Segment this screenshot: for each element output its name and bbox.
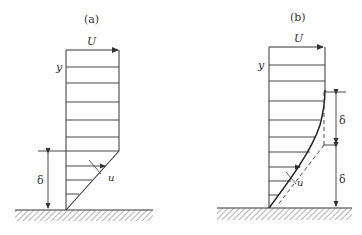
panel-a: (a) U y u δ — [15, 13, 153, 221]
panel-a-velocity-lines — [38, 67, 119, 194]
panel-b-dashed-diagonal — [277, 145, 324, 206]
panel-a-u-label: u — [108, 172, 114, 183]
panel-a-free-stream-label: U — [87, 35, 97, 48]
panel-a-u-pointer — [89, 160, 101, 174]
panel-b-y-label: y — [257, 59, 265, 72]
panel-a-y-label: y — [55, 61, 63, 74]
panel-b-u-label: u — [297, 177, 303, 188]
panel-b-free-stream-label: U — [294, 32, 304, 45]
panel-a-label: (a) — [84, 13, 99, 26]
panel-b-wall-hatching — [217, 208, 352, 220]
panel-b-curved-profile — [269, 90, 325, 208]
panel-b-label: (b) — [290, 11, 306, 24]
panel-b-delta-upper-label: δ — [339, 114, 346, 127]
boundary-layer-diagram: (a) U y u δ — [0, 0, 362, 235]
panel-b-velocity-lines — [269, 65, 325, 195]
panel-b-delta-lower-label: δ — [339, 173, 346, 186]
panel-a-wall-hatching — [15, 210, 153, 221]
panel-a-delta-label: δ — [37, 174, 44, 187]
panel-b: (b) U y u δ — [217, 11, 352, 220]
